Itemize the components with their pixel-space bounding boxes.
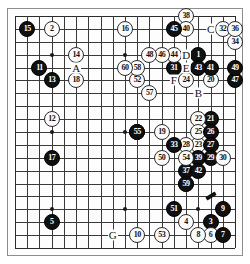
stone-white-24[interactable]: 24 [178,72,194,88]
hoshi-point [50,130,54,134]
hoshi-point [123,53,127,57]
stone-black-55[interactable]: 55 [129,124,145,140]
stone-white-2[interactable]: 2 [44,21,60,37]
stone-white-53[interactable]: 53 [154,227,170,243]
hoshi-point [123,207,127,211]
stone-white-36[interactable]: 36 [227,21,243,37]
stone-white-4[interactable]: 4 [178,214,194,230]
grid-line-vertical [15,16,16,248]
stone-black-17[interactable]: 17 [44,150,60,166]
stone-white-16[interactable]: 16 [117,21,133,37]
stone-white-12[interactable]: 12 [44,111,60,127]
hoshi-point [50,207,54,211]
go-board: 1234567891011121314151617181920212223242… [7,8,243,256]
grid-line-horizontal [15,248,235,249]
stone-white-19[interactable]: 19 [154,124,170,140]
grid-line-vertical [88,16,89,248]
stone-black-51[interactable]: 51 [166,201,182,217]
stone-black-59[interactable]: 59 [178,176,194,192]
letter-marker-E: E [182,62,191,73]
stone-white-60[interactable]: 60 [117,60,133,76]
stone-black-42[interactable]: 42 [190,163,206,179]
stone-black-7[interactable]: 7 [215,227,231,243]
stone-black-49[interactable]: 49 [227,60,243,76]
stone-black-15[interactable]: 15 [19,21,35,37]
grid-line-vertical [39,16,40,248]
grid-line-vertical [101,16,102,248]
stone-black-5[interactable]: 5 [44,214,60,230]
letter-marker-C: C [206,23,215,34]
stone-white-18[interactable]: 18 [68,72,84,88]
grid-line-vertical [27,16,28,248]
stone-white-57[interactable]: 57 [141,85,157,101]
stone-white-8[interactable]: 8 [190,227,206,243]
go-diagram: 1234567891011121314151617181920212223242… [0,0,250,264]
stone-black-13[interactable]: 13 [44,72,60,88]
hoshi-point [123,130,127,134]
stone-black-33[interactable]: 33 [166,137,182,153]
stone-white-10[interactable]: 10 [129,227,145,243]
stone-black-43[interactable]: 43 [190,60,206,76]
grid-line-vertical [235,16,236,248]
letter-marker-B: B [194,88,203,99]
hoshi-point [50,53,54,57]
stone-black-9[interactable]: 9 [215,201,231,217]
letter-marker-G: G [108,230,118,241]
stone-white-48[interactable]: 48 [141,47,157,63]
stone-black-11[interactable]: 11 [31,60,47,76]
letter-marker-D: D [181,49,191,60]
letter-marker-F: F [170,75,178,86]
stone-black-45[interactable]: 45 [166,21,182,37]
stone-white-50[interactable]: 50 [154,150,170,166]
letter-marker-A: A [71,62,81,73]
stone-white-30[interactable]: 30 [215,150,231,166]
hoshi-point [196,207,200,211]
stone-white-54[interactable]: 54 [178,150,194,166]
grid-line-vertical [64,16,65,248]
grid-line-vertical [113,16,114,248]
